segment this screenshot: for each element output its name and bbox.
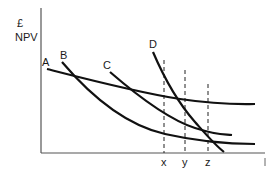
- curve-label-a: A: [42, 57, 49, 68]
- ylabel-npv: NPV: [15, 32, 38, 43]
- npv-chart: £ NPV A B C D x y z: [0, 0, 277, 173]
- ylabel-currency: £: [17, 18, 23, 29]
- ref-label-y: y: [182, 157, 188, 168]
- ref-label-x: x: [161, 157, 167, 168]
- chart-plot: [0, 0, 277, 173]
- curve-label-c: C: [103, 60, 111, 71]
- curve-label-b: B: [60, 50, 67, 61]
- curve-a: [47, 69, 255, 104]
- curve-label-d: D: [149, 39, 157, 50]
- ref-label-z: z: [205, 157, 211, 168]
